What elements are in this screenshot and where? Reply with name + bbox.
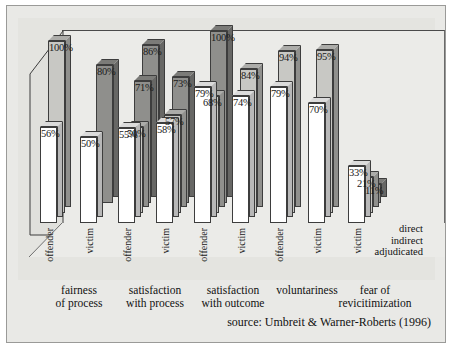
subgroup-label-victim-7: victim bbox=[312, 228, 323, 254]
legend-item-direct: direct bbox=[375, 223, 423, 235]
bar-side-face bbox=[257, 63, 263, 207]
legend: direct indirect adjudicated bbox=[375, 223, 423, 258]
bar-front-face bbox=[270, 87, 287, 223]
bar-value-label: 50% bbox=[81, 138, 100, 149]
subgroup-label-offender-2: offender bbox=[122, 228, 133, 262]
bar-value-label: 33% bbox=[349, 167, 368, 178]
bar-front-face bbox=[80, 137, 97, 223]
bar-side-face bbox=[65, 35, 71, 207]
bar-front-face bbox=[156, 123, 173, 223]
chart-frame: 86%11%100%73%71%80%21%95%94%84%68%57%50%… bbox=[6, 5, 446, 343]
bar-front-face bbox=[232, 96, 249, 223]
bar-side-face bbox=[295, 45, 301, 207]
category-label-line2: revicitimization bbox=[320, 297, 430, 310]
subgroup-label-victim-8: victim bbox=[352, 228, 363, 254]
plot-area: 86%11%100%73%71%80%21%95%94%84%68%57%50%… bbox=[18, 18, 435, 280]
bar-side-face bbox=[287, 81, 293, 217]
bar-value-label: 79% bbox=[195, 88, 214, 99]
bar-side-face bbox=[333, 44, 339, 207]
bar-direct-fairness-of-process-offender bbox=[40, 127, 57, 223]
bar-side-face bbox=[249, 90, 255, 217]
bar-value-label: 79% bbox=[271, 88, 290, 99]
bar-front-face bbox=[40, 127, 57, 223]
source-note: source: Umbreit & Warner-Roberts (1996) bbox=[7, 315, 431, 330]
bar-value-label: 58% bbox=[157, 124, 176, 135]
subgroup-label-victim-1: victim bbox=[84, 228, 95, 254]
bar-value-label: 55% bbox=[119, 129, 138, 140]
bar-value-label: 74% bbox=[233, 97, 252, 108]
bar-value-label: 71% bbox=[135, 82, 154, 93]
bar-value-label: 56% bbox=[41, 128, 60, 139]
bar-direct-voluntariness-offender bbox=[270, 87, 287, 223]
subgroup-label-victim-3: victim bbox=[160, 228, 171, 254]
bar-front-face bbox=[118, 128, 135, 223]
category-label-line2: with outcome bbox=[178, 297, 288, 310]
bar-value-label: 86% bbox=[143, 46, 162, 57]
bar-direct-satisfaction-with-process-victim bbox=[156, 123, 173, 223]
bar-direct-satisfaction-with-outcome-victim bbox=[232, 96, 249, 223]
bar-value-label: 73% bbox=[173, 78, 192, 89]
bar-direct-fairness-of-process-victim bbox=[80, 137, 97, 223]
bar-value-label: 80% bbox=[97, 66, 116, 77]
category-label-fear-of-revicitimization: fear ofrevicitimization bbox=[320, 284, 430, 310]
bar-value-label: 94% bbox=[279, 52, 298, 63]
bar-front-face bbox=[308, 103, 325, 223]
subgroup-label-offender-4: offender bbox=[198, 228, 209, 262]
bar-direct-voluntariness-victim bbox=[308, 103, 325, 223]
subgroup-label-offender-6: offender bbox=[274, 228, 285, 262]
legend-item-indirect: indirect bbox=[375, 235, 423, 247]
bar-value-label: 95% bbox=[317, 51, 336, 62]
subgroup-label-victim-5: victim bbox=[236, 228, 247, 254]
bar-value-label: 70% bbox=[309, 104, 328, 115]
bar-value-label: 100% bbox=[211, 32, 235, 43]
bar-value-label: 21% bbox=[357, 178, 376, 189]
bar-direct-satisfaction-with-process-offender bbox=[118, 128, 135, 223]
bar-side-face bbox=[325, 97, 331, 217]
subgroup-label-offender-0: offender bbox=[44, 228, 55, 262]
legend-item-adjudicated: adjudicated bbox=[375, 246, 423, 258]
bar-value-label: 84% bbox=[241, 70, 260, 81]
category-label-line1: fear of bbox=[320, 284, 430, 297]
bar-value-label: 100% bbox=[49, 42, 73, 53]
